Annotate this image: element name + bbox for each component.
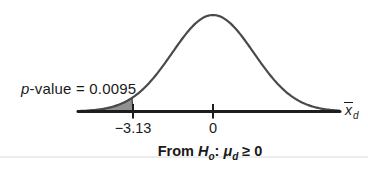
x-axis-label: xd	[344, 102, 359, 118]
x-bar-symbol: x	[344, 102, 353, 118]
figure-caption: From Ho: μd ≥ 0	[105, 143, 315, 159]
x-bar-subscript: d	[353, 110, 359, 121]
figure-normal-curve: p-value = 0.0095 −3.13 0 xd From Ho: μd …	[0, 0, 368, 169]
caption-mu-symbol: μ	[223, 143, 232, 159]
caption-inequality: ≥ 0	[238, 143, 262, 159]
tick-label-zero: 0	[183, 120, 243, 136]
p-value-annotation: p-value = 0.0095	[21, 80, 136, 97]
p-value-annotation-text: -value = 0.0095	[30, 80, 137, 97]
tick-label-test-statistic: −3.13	[103, 120, 163, 136]
caption-h0-symbol: H	[198, 143, 208, 159]
caption-from: From	[158, 143, 198, 159]
p-symbol: p	[21, 80, 30, 97]
